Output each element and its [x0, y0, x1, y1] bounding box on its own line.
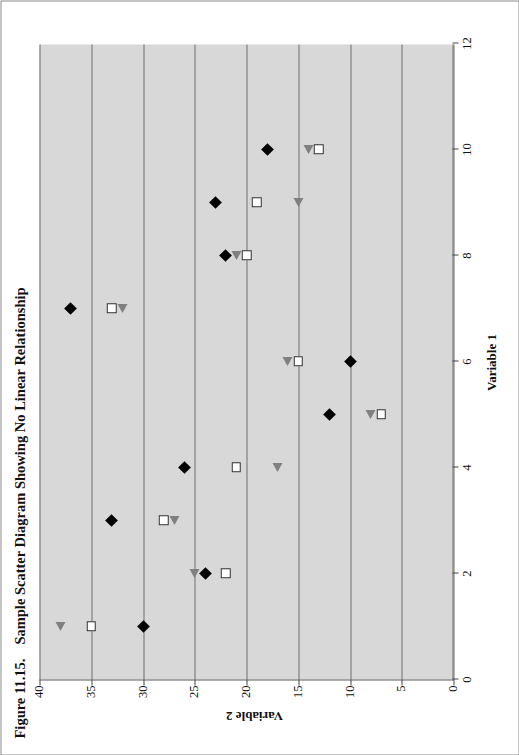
y-tick-mark-40 [39, 679, 40, 685]
y-tick-label-40: 40 [32, 685, 47, 698]
data-point-left-triangle-9-15 [293, 198, 303, 207]
data-point-filled-diamond-9-23 [209, 196, 222, 209]
y-axis-title: Variable 2 [47, 707, 461, 723]
data-point-filled-diamond-3-33 [105, 514, 118, 527]
x-tick-label-4: 4 [459, 464, 474, 470]
y-tick-label-10: 10 [342, 685, 357, 698]
data-point-filled-diamond-2-24 [198, 567, 211, 580]
gridline-y-0 [453, 44, 454, 679]
x-tick-label-0: 0 [459, 676, 474, 682]
data-point-open-square-5-7 [376, 409, 386, 419]
x-tick-mark-8 [452, 254, 458, 255]
x-tick-mark-10 [452, 148, 458, 149]
data-point-open-square-9-19 [252, 197, 262, 207]
x-tick-mark-2 [452, 572, 458, 573]
x-tick-mark-6 [452, 360, 458, 361]
y-tick-label-5: 5 [394, 685, 409, 691]
y-tick-mark-0 [453, 679, 454, 685]
data-point-left-triangle-2-25 [189, 569, 199, 578]
y-tick-label-35: 35 [83, 685, 98, 698]
data-point-filled-diamond-7-37 [64, 302, 77, 315]
data-point-filled-diamond-10-18 [260, 143, 273, 156]
data-point-filled-diamond-1-30 [136, 620, 149, 633]
data-point-open-square-1-35 [86, 621, 96, 631]
gridline-y-30 [143, 44, 144, 679]
x-tick-mark-4 [452, 466, 458, 467]
data-point-filled-diamond-4-26 [178, 461, 191, 474]
x-tick-label-8: 8 [459, 252, 474, 258]
data-point-left-triangle-6-16 [282, 357, 292, 366]
data-point-open-square-4-21 [231, 462, 241, 472]
x-tick-mark-0 [452, 678, 458, 679]
gridline-y-20 [246, 44, 247, 679]
gridline-y-25 [194, 44, 195, 679]
gridline-y-40 [39, 44, 40, 679]
y-tick-mark-20 [246, 679, 247, 685]
data-point-filled-diamond-6-10 [343, 355, 356, 368]
data-point-left-triangle-4-17 [272, 463, 282, 472]
y-tick-mark-30 [143, 679, 144, 685]
y-tick-label-0: 0 [446, 685, 461, 691]
gridline-y-5 [401, 44, 402, 679]
data-point-open-square-10-13 [314, 144, 324, 154]
data-point-left-triangle-5-8 [365, 410, 375, 419]
data-point-left-triangle-10-14 [303, 145, 313, 154]
y-tick-mark-25 [194, 679, 195, 685]
x-tick-mark-12 [452, 42, 458, 43]
data-point-left-triangle-1-38 [55, 622, 65, 631]
data-point-filled-diamond-8-22 [219, 249, 232, 262]
data-point-filled-diamond-5-12 [322, 408, 335, 421]
data-point-open-square-7-33 [107, 303, 117, 313]
x-tick-label-12: 12 [459, 37, 474, 50]
y-tick-label-30: 30 [135, 685, 150, 698]
y-tick-mark-10 [350, 679, 351, 685]
y-tick-mark-5 [401, 679, 402, 685]
figure-title: Sample Scatter Diagram Showing No Linear… [11, 287, 28, 644]
data-point-left-triangle-3-27 [169, 516, 179, 525]
y-tick-label-25: 25 [187, 685, 202, 698]
data-point-open-square-3-28 [158, 515, 168, 525]
data-point-left-triangle-7-32 [117, 304, 127, 313]
x-axis-title: Variable 1 [483, 44, 499, 680]
x-tick-label-2: 2 [459, 570, 474, 576]
y-tick-mark-15 [298, 679, 299, 685]
data-point-open-square-2-22 [221, 568, 231, 578]
y-tick-label-15: 15 [290, 685, 305, 698]
figure-caption: Figure 11.15. Sample Scatter Diagram Sho… [11, 287, 28, 738]
figure-panel: Figure 11.15. Sample Scatter Diagram Sho… [0, 0, 519, 755]
plot-area: 0510152025303540 024681012 [39, 44, 453, 680]
gridline-y-35 [91, 44, 92, 679]
data-point-open-square-6-15 [293, 356, 303, 366]
figure-rotation-wrapper: Figure 11.15. Sample Scatter Diagram Sho… [0, 0, 519, 755]
figure-number: Figure 11.15. [11, 658, 28, 738]
data-point-left-triangle-8-21 [231, 251, 241, 260]
data-point-open-square-8-20 [241, 250, 251, 260]
y-tick-label-20: 20 [239, 685, 254, 698]
x-tick-label-10: 10 [459, 143, 474, 156]
plot-container: 0510152025303540 024681012 [39, 44, 453, 680]
y-tick-mark-35 [91, 679, 92, 685]
x-tick-label-6: 6 [459, 358, 474, 364]
